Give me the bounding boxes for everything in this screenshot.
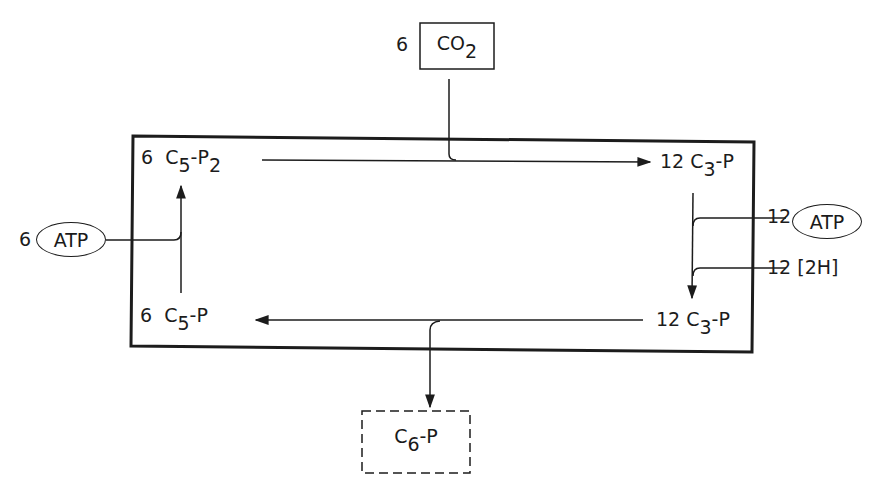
node-coefficient: 12 <box>656 308 680 330</box>
left-atp-coefficient: 6 <box>19 230 31 249</box>
node-subscript: 3 <box>704 158 716 180</box>
co2-subscript: 2 <box>465 40 477 62</box>
node-suffix: -P <box>190 304 208 326</box>
c6p-subscript: 6 <box>407 433 419 455</box>
node-species: C <box>686 308 699 330</box>
reduction-arrow <box>692 193 693 298</box>
node-top-left: 6 C5-P2 <box>141 148 221 167</box>
node-subscript: 3 <box>700 316 712 338</box>
node-suffix-subscript: 2 <box>209 154 221 176</box>
left-atp-ellipse: ATP <box>36 222 106 257</box>
node-coefficient: 6 <box>140 304 152 326</box>
node-species: C <box>165 146 178 168</box>
node-coefficient: 6 <box>141 146 153 168</box>
c6p-species: C <box>394 425 407 447</box>
right-atp-coefficient: 12 <box>767 207 791 226</box>
node-species: C <box>164 304 177 326</box>
co2-coefficient: 6 <box>396 35 408 54</box>
co2-label: CO2 <box>420 23 494 63</box>
node-bottom-left: 6 C5-P <box>140 306 208 325</box>
node-subscript: 5 <box>178 154 190 176</box>
co2-species: CO <box>437 32 465 54</box>
node-suffix: -P <box>716 150 734 172</box>
left-atp-label: ATP <box>54 229 89 251</box>
right-2h-text: [2H] <box>797 256 838 278</box>
carboxylation-arrow <box>262 160 650 162</box>
node-subscript: 5 <box>177 312 189 334</box>
node-bottom-right: 12 C3-P <box>656 310 730 329</box>
node-suffix: -P <box>191 146 209 168</box>
right-atp-label: ATP <box>810 211 845 233</box>
c6p-output-line <box>430 321 440 407</box>
node-species: C <box>690 150 703 172</box>
node-coefficient: 12 <box>660 150 684 172</box>
node-suffix: -P <box>712 308 730 330</box>
right-2h-label: 12 [2H] <box>767 258 838 277</box>
node-top-right: 12 C3-P <box>660 152 734 171</box>
c6p-label: C6-P <box>362 411 470 461</box>
right-atp-ellipse: ATP <box>792 204 862 239</box>
right-2h-coefficient: 12 <box>767 256 791 278</box>
co2-input-line <box>449 79 456 160</box>
c6p-suffix: -P <box>420 425 438 447</box>
left-atp-line <box>106 232 181 240</box>
